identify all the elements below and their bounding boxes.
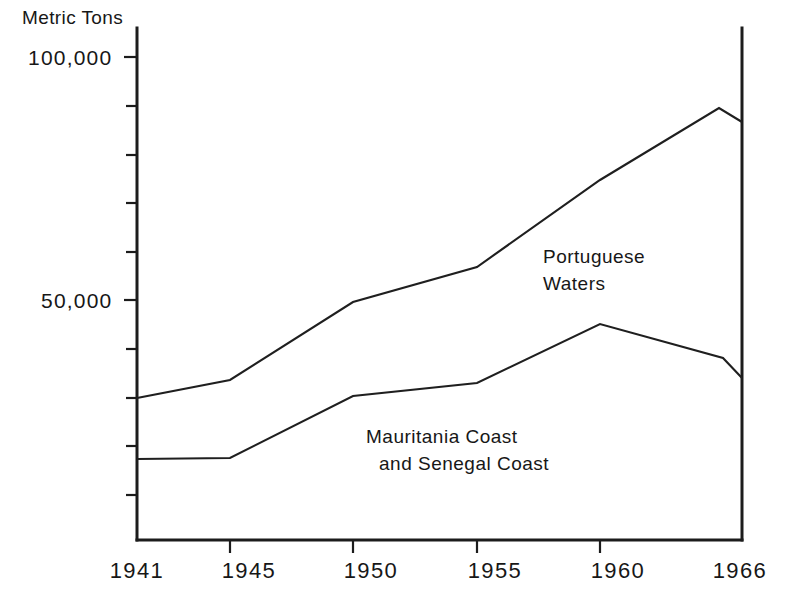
y-tick-label-50000: 50,000 bbox=[41, 289, 112, 312]
x-tick-label-1955: 1955 bbox=[468, 558, 523, 583]
x-tick-label-1950: 1950 bbox=[344, 558, 399, 583]
series-annotation-mauritania-line1: Mauritania Coast bbox=[366, 426, 518, 447]
line-chart-canvas: Metric Tons 100,000 50,000 1941 1945 195… bbox=[0, 0, 787, 599]
y-tick-label-100000: 100,000 bbox=[28, 46, 112, 69]
series-annotation-mauritania-senegal: Mauritania Coast and Senegal Coast bbox=[366, 426, 549, 474]
x-tick-label-1941: 1941 bbox=[110, 558, 165, 583]
x-tick-label-1966: 1966 bbox=[713, 558, 768, 583]
x-axis-ticks bbox=[230, 540, 600, 553]
series-line-portuguese-waters bbox=[137, 108, 742, 398]
x-tick-label-1960: 1960 bbox=[591, 558, 646, 583]
x-tick-label-1945: 1945 bbox=[222, 558, 277, 583]
y-axis-title: Metric Tons bbox=[22, 7, 123, 28]
y-axis-ticks bbox=[124, 57, 137, 495]
chart-container: Metric Tons 100,000 50,000 1941 1945 195… bbox=[0, 0, 787, 599]
series-annotation-portuguese-waters: Portuguese Waters bbox=[543, 246, 645, 294]
series-annotation-portuguese-line1: Portuguese bbox=[543, 246, 645, 267]
series-annotation-portuguese-line2: Waters bbox=[543, 273, 605, 294]
series-annotation-mauritania-line2: and Senegal Coast bbox=[379, 453, 549, 474]
